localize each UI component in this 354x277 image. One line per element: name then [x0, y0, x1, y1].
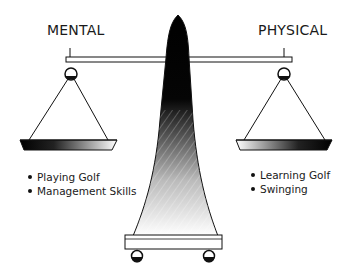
physical-items-list: Learning Golf Swinging [250, 168, 330, 196]
balance-scale-illustration [0, 0, 354, 277]
left-wheel [132, 251, 143, 263]
left-pan [20, 140, 117, 150]
list-item: Playing Golf [27, 170, 136, 184]
list-item: Swinging [250, 182, 330, 196]
right-pan [236, 140, 332, 150]
mental-label: MENTAL [47, 22, 104, 38]
right-pan-hanger [244, 68, 325, 140]
mental-items-list: Playing Golf Management Skills [27, 170, 136, 198]
center-pillar [130, 15, 225, 240]
balance-scale-diagram: MENTAL PHYSICAL Playing Golf Management … [0, 0, 354, 277]
scale-base [125, 235, 222, 249]
list-item: Management Skills [27, 184, 136, 198]
physical-label: PHYSICAL [258, 22, 327, 38]
right-wheel [204, 251, 215, 263]
left-pan-hanger [29, 68, 108, 140]
list-item: Learning Golf [250, 168, 330, 182]
